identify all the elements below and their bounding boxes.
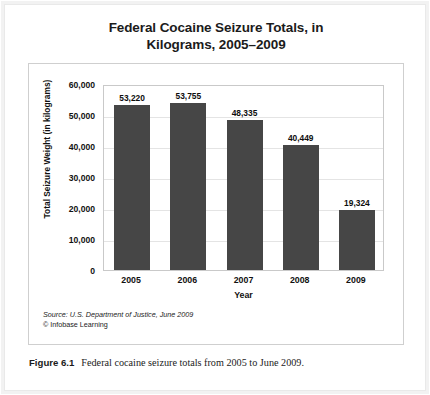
bar-value-label: 48,335 bbox=[225, 108, 265, 118]
bar[interactable] bbox=[339, 210, 375, 270]
chart-title-line-1: Federal Cocaine Seizure Totals, in bbox=[29, 19, 403, 36]
bar[interactable] bbox=[283, 145, 319, 270]
bar-value-label: 53,755 bbox=[168, 91, 208, 101]
bar[interactable] bbox=[170, 103, 206, 270]
y-axis-tick-label: 60,000 bbox=[69, 80, 95, 90]
figure-caption-label: Figure 6.1 bbox=[29, 357, 74, 368]
bar-value-label: 19,324 bbox=[337, 198, 377, 208]
bar-group[interactable]: 53,220 bbox=[112, 84, 152, 270]
y-axis-tick-label: 50,000 bbox=[69, 111, 95, 121]
chart-panel: Total Seizure Weight (in kilograms) 010,… bbox=[28, 63, 404, 345]
x-axis-tick-label: 2005 bbox=[111, 275, 151, 285]
figure-caption: Figure 6.1Federal cocaine seizure totals… bbox=[29, 357, 405, 368]
figure-frame: Federal Cocaine Seizure Totals, in Kilog… bbox=[4, 4, 426, 391]
y-axis-tick-labels: 010,00020,00030,00040,00050,00060,000 bbox=[41, 85, 99, 271]
y-axis-tick-label: 20,000 bbox=[69, 204, 95, 214]
bar-group[interactable]: 48,335 bbox=[225, 84, 265, 270]
x-axis-tick-labels: 20052006200720082009 bbox=[103, 273, 384, 289]
x-axis-tick-label: 2008 bbox=[280, 275, 320, 285]
x-axis-tick-label: 2006 bbox=[167, 275, 207, 285]
bar[interactable] bbox=[114, 105, 150, 270]
bar-value-label: 40,449 bbox=[281, 133, 321, 143]
chart-title: Federal Cocaine Seizure Totals, in Kilog… bbox=[29, 19, 403, 53]
y-axis-tick-label: 40,000 bbox=[69, 142, 95, 152]
source-block: Source: U.S. Department of Justice, June… bbox=[43, 310, 193, 330]
x-axis-tick-label: 2009 bbox=[336, 275, 376, 285]
y-axis-tick-label: 10,000 bbox=[69, 235, 95, 245]
bar-group[interactable]: 19,324 bbox=[337, 84, 377, 270]
y-axis-tick-label: 30,000 bbox=[69, 173, 95, 183]
bars-layer: 53,22053,75548,33540,44919,324 bbox=[104, 86, 383, 270]
bar-group[interactable]: 40,449 bbox=[281, 84, 321, 270]
y-axis-tick-label: 0 bbox=[90, 266, 95, 276]
bar-value-label: 53,220 bbox=[112, 93, 152, 103]
plot-area: 53,22053,75548,33540,44919,324 bbox=[103, 85, 384, 271]
bar[interactable] bbox=[227, 120, 263, 270]
x-axis-tick-label: 2007 bbox=[224, 275, 264, 285]
figure-caption-text: Federal cocaine seizure totals from 2005… bbox=[81, 357, 304, 368]
x-axis-title: Year bbox=[103, 290, 384, 300]
source-line: Source: U.S. Department of Justice, June… bbox=[43, 310, 193, 320]
copyright-line: © Infobase Learning bbox=[43, 320, 193, 330]
bar-group[interactable]: 53,755 bbox=[168, 84, 208, 270]
chart-title-line-2: Kilograms, 2005–2009 bbox=[29, 36, 403, 53]
